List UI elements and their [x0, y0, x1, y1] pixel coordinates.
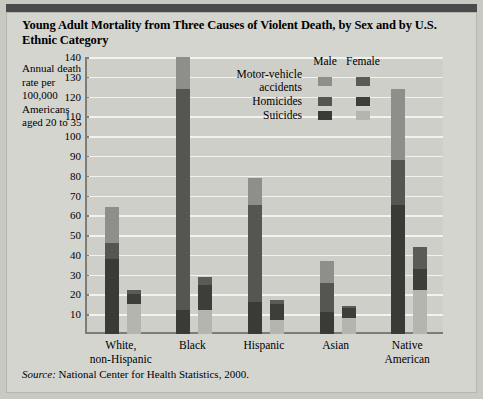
gridline [85, 196, 443, 198]
bar-male [320, 261, 334, 334]
legend-swatch-cell [344, 97, 382, 106]
gridline [85, 176, 443, 178]
bar-female [342, 306, 356, 334]
legend-swatch-male [318, 97, 332, 106]
bar-segment [105, 243, 119, 259]
gridline [85, 275, 443, 277]
bar-segment [248, 302, 262, 334]
legend-swatch-female [356, 77, 370, 86]
bar-segment [127, 304, 141, 334]
bar-segment [413, 290, 427, 334]
bar-segment [270, 320, 284, 334]
bar-segment [413, 247, 427, 269]
legend-label: Homicides [232, 95, 306, 108]
legend-swatch-male [318, 77, 332, 86]
x-axis-category-label: NativeAmerican [351, 339, 463, 366]
y-axis-tick-mark [85, 156, 89, 158]
y-axis-tick-label: 130 [47, 71, 81, 83]
bar-segment [176, 57, 190, 89]
legend-swatch-female [356, 97, 370, 106]
legend-swatch-cell [306, 97, 344, 106]
legend-swatch-cell [306, 111, 344, 120]
gridline [85, 215, 443, 217]
y-axis-tick-label: 110 [47, 110, 81, 122]
y-axis-tick-label: 30 [47, 269, 81, 281]
legend-label: Suicides [232, 109, 306, 122]
legend-col-male: Male [306, 55, 344, 67]
y-axis-tick-label: 50 [47, 229, 81, 241]
legend-swatch-cell [306, 77, 344, 86]
y-axis-tick-mark [85, 275, 89, 277]
bar-segment [176, 310, 190, 334]
page-title: Young Adult Mortality from Three Causes … [22, 18, 452, 48]
y-axis-tick-mark [85, 215, 89, 217]
bar-segment [176, 89, 190, 311]
bar-segment [270, 300, 284, 304]
gridline [85, 255, 443, 257]
bar-male [105, 207, 119, 334]
top-accent-bar [6, 4, 477, 12]
y-axis-tick-label: 70 [47, 190, 81, 202]
bar-segment [391, 89, 405, 160]
bar-segment [248, 178, 262, 206]
y-axis-tick-label: 20 [47, 288, 81, 300]
bar-segment [198, 285, 212, 311]
bar-female [198, 277, 212, 334]
bar-segment [248, 205, 262, 302]
y-axis-tick-mark [85, 255, 89, 257]
bar-segment [391, 205, 405, 334]
bar-segment [320, 261, 334, 283]
x-label-line2: non-Hispanic [65, 353, 177, 367]
legend-row: Suicides [232, 109, 382, 122]
y-axis-tick-mark [85, 176, 89, 178]
bar-segment [127, 294, 141, 304]
legend-swatch-cell [344, 111, 382, 120]
bar-segment [342, 306, 356, 308]
y-axis-tick-mark [85, 294, 89, 296]
y-axis-tick-mark [85, 136, 89, 138]
y-axis-tick-label: 100 [47, 130, 81, 142]
bar-segment [413, 269, 427, 291]
source-note: Source: National Center for Health Stati… [22, 368, 249, 380]
legend-swatch-cell [344, 77, 382, 86]
bar-segment [342, 308, 356, 318]
gridline [85, 156, 443, 158]
y-axis-tick-mark [85, 196, 89, 198]
y-axis-tick-label: 80 [47, 170, 81, 182]
y-axis-tick-label: 10 [47, 308, 81, 320]
bar-male [248, 178, 262, 334]
gridline [85, 235, 443, 237]
bar-segment [270, 304, 284, 320]
bar-segment [320, 283, 334, 313]
y-axis-tick-mark [85, 77, 89, 79]
bar-segment [105, 259, 119, 334]
y-axis-tick-mark [85, 97, 89, 99]
y-axis-tick-mark [85, 235, 89, 237]
bar-female [127, 290, 141, 334]
bar-segment [320, 312, 334, 334]
legend-label: Motor-vehicleaccidents [232, 68, 306, 94]
y-axis-ticks: 102030405060708090100110120130140 [45, 57, 81, 334]
y-axis-tick-label: 120 [47, 91, 81, 103]
bar-segment [105, 207, 119, 243]
y-axis-tick-mark [85, 314, 89, 316]
y-axis-tick-label: 140 [47, 51, 81, 63]
gridline [85, 136, 443, 138]
bar-segment [342, 318, 356, 334]
x-label-line1: Native [351, 339, 463, 353]
bar-segment [391, 160, 405, 206]
legend-col-female: Female [344, 55, 382, 67]
legend-swatch-male [318, 111, 332, 120]
legend: Male Female Motor-vehicleaccidentsHomici… [232, 55, 382, 122]
bar-segment [127, 290, 141, 294]
bar-segment [198, 310, 212, 334]
bar-female [413, 247, 427, 334]
chart-page: Young Adult Mortality from Three Causes … [0, 0, 483, 399]
bar-male [176, 57, 190, 334]
legend-swatch-female [356, 111, 370, 120]
bar-segment [198, 277, 212, 285]
y-axis-tick-label: 60 [47, 209, 81, 221]
source-value: National Center for Health Statistics, 2… [59, 368, 249, 380]
x-label-line2: American [351, 353, 463, 367]
source-label: Source: [22, 368, 56, 380]
